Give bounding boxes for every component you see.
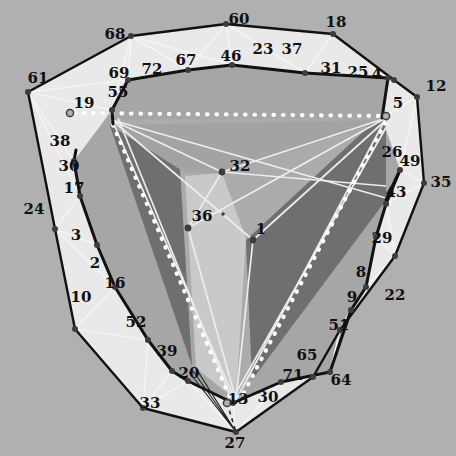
open-marker-13 xyxy=(223,399,230,406)
node-36-dot xyxy=(185,225,192,232)
polygon-diagram-canvas xyxy=(0,0,456,456)
open-marker-19 xyxy=(66,109,73,116)
open-marker-5 xyxy=(382,112,389,119)
diagram-stage: 6018682337466772312546169125519526493835… xyxy=(0,0,456,456)
node-32-dot xyxy=(219,169,226,176)
centroid-dot xyxy=(221,212,225,216)
node-1-dot xyxy=(250,237,257,244)
